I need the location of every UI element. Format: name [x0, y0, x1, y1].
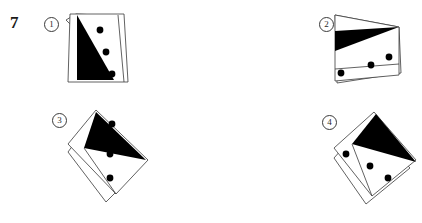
question-number: 7 [10, 14, 19, 31]
question-sheet: 7 1 2 3 [0, 0, 422, 223]
figure-2-dot [338, 70, 345, 77]
figure-1-dot [97, 27, 104, 34]
figure-3-dot [107, 151, 114, 158]
figure-4-dot [343, 151, 350, 158]
figure-2-dot [386, 54, 393, 61]
figure-2-card-outline [335, 15, 399, 81]
figure-option-3[interactable] [66, 108, 156, 208]
figure-1-canvas [62, 10, 138, 90]
figure-1-dot [103, 49, 110, 56]
figure-2-dot [368, 62, 375, 69]
option-marker-2[interactable]: 2 [319, 17, 334, 32]
figure-2-canvas [333, 13, 411, 93]
figure-1-dot [109, 71, 116, 78]
figure-option-1[interactable] [62, 10, 138, 90]
figure-3-dot [107, 175, 114, 182]
figure-3-canvas [66, 108, 156, 208]
figure-option-4[interactable] [332, 110, 422, 210]
figure-4-dot [367, 163, 374, 170]
figure-4-canvas [332, 110, 422, 210]
option-marker-1[interactable]: 1 [44, 17, 59, 32]
figure-option-2[interactable] [333, 13, 411, 93]
figure-3-dot [109, 121, 116, 128]
option-marker-3[interactable]: 3 [52, 113, 67, 128]
figure-4-dot [385, 175, 392, 182]
